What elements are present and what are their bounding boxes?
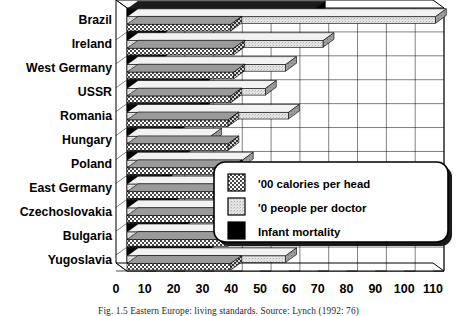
bar-front-face	[127, 72, 234, 79]
x-tick-label-10: 10	[138, 282, 152, 296]
bar-top-face	[127, 200, 227, 208]
bar-top-face	[127, 81, 276, 89]
legend-label-1: '0 people per doctor	[258, 202, 367, 214]
bar	[127, 88, 242, 103]
bar-front-face	[127, 120, 228, 127]
bar-front-face	[127, 240, 228, 247]
bar-front-face	[127, 48, 234, 55]
x-tick-label-100: 100	[394, 282, 415, 296]
bar-top-face	[127, 224, 227, 232]
x-tick-label-0: 0	[113, 282, 120, 296]
category-label-ireland: Ireland	[72, 37, 112, 51]
bar-top-face	[127, 128, 222, 136]
category-labels: BrazilIrelandWest GermanyUSSRRomaniaHung…	[20, 13, 112, 266]
bar-top-face	[127, 255, 242, 263]
legend-swatch-1	[228, 198, 245, 215]
bar	[127, 255, 242, 270]
x-axis-tick-labels: 0102030405060708090100110	[113, 282, 444, 296]
x-tick-label-90: 90	[368, 282, 382, 296]
bar	[127, 136, 239, 151]
category-label-east-germany: East Germany	[29, 181, 112, 195]
x-tick-label-70: 70	[311, 282, 325, 296]
chart-legend: '00 calories per head'0 people per docto…	[214, 162, 452, 246]
bar-top-face	[127, 33, 334, 41]
bar	[127, 40, 245, 55]
bar	[127, 16, 242, 31]
bar-top-face	[127, 104, 299, 112]
bar-front-face	[127, 263, 231, 270]
bar-top-face	[127, 9, 446, 17]
x-tick-label-60: 60	[282, 282, 296, 296]
category-label-brazil: Brazil	[79, 13, 113, 27]
x-tick-label-110: 110	[423, 282, 443, 296]
bar	[127, 112, 239, 127]
bar-top-face	[127, 136, 239, 144]
legend-swatch-2	[228, 222, 245, 239]
category-label-czechoslovakia: Czechoslovakia	[20, 205, 112, 219]
bar-top-face	[127, 248, 297, 256]
bar-top-face	[127, 112, 239, 120]
bar-front-face	[127, 144, 228, 151]
legend-label-2: Infant mortality	[258, 226, 341, 238]
category-label-hungary: Hungary	[62, 133, 112, 147]
x-tick-label-30: 30	[196, 282, 210, 296]
category-label-ussr: USSR	[78, 85, 112, 99]
category-label-bulgaria: Bulgaria	[63, 229, 112, 243]
bar-top-face	[127, 57, 297, 65]
legend-swatch-0	[228, 174, 245, 191]
x-tick-label-50: 50	[253, 282, 267, 296]
bar-top-face	[127, 16, 242, 24]
bar-front-face	[127, 24, 231, 31]
bar-top-face	[127, 1, 325, 9]
bar	[127, 64, 245, 79]
bar-top-face	[127, 88, 242, 96]
x-tick-label-40: 40	[224, 282, 238, 296]
bar-front-face	[127, 96, 231, 103]
bar-top-face	[127, 152, 253, 160]
category-label-poland: Poland	[71, 157, 112, 171]
bar-top-face	[127, 64, 245, 72]
category-label-romania: Romania	[60, 109, 112, 123]
bar-top-face	[127, 40, 245, 48]
legend-label-0: '00 calories per head	[258, 178, 370, 190]
x-tick-label-80: 80	[340, 282, 354, 296]
category-label-west-germany: West Germany	[26, 61, 112, 75]
category-label-yugoslavia: Yugoslavia	[48, 253, 112, 267]
figure-caption: Fig. 1.5 Eastern Europe: living standard…	[0, 306, 457, 316]
x-tick-label-20: 20	[167, 282, 181, 296]
